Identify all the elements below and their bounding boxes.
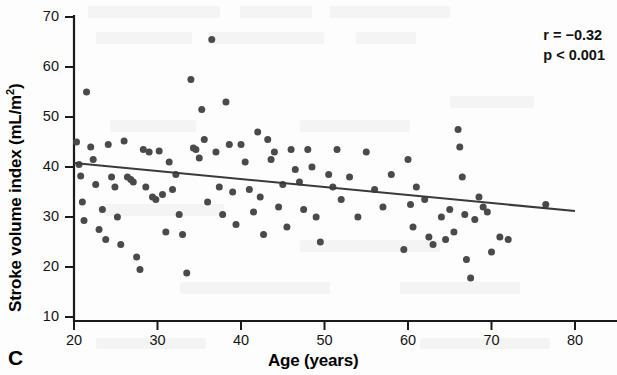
- data-point: [156, 148, 163, 155]
- data-point: [484, 209, 491, 216]
- data-point: [505, 236, 512, 243]
- data-point: [152, 196, 159, 203]
- data-point: [459, 174, 466, 181]
- data-point: [169, 186, 176, 193]
- data-point: [317, 239, 324, 246]
- data-point: [363, 149, 370, 156]
- data-point: [232, 221, 239, 228]
- data-point: [438, 214, 445, 221]
- data-point: [159, 191, 166, 198]
- data-point: [176, 211, 183, 218]
- scatter-points: [73, 36, 549, 282]
- data-point: [179, 231, 186, 238]
- data-point: [405, 156, 412, 163]
- y-tick-label: 30: [29, 208, 59, 224]
- data-point: [467, 275, 474, 282]
- data-point: [222, 99, 229, 106]
- y-tick-label: 60: [29, 58, 59, 74]
- data-point: [136, 266, 143, 273]
- y-tick-label: 10: [29, 308, 59, 324]
- data-point: [379, 204, 386, 211]
- data-point: [325, 171, 332, 178]
- data-point: [300, 206, 307, 213]
- data-point: [334, 146, 341, 153]
- data-point: [257, 194, 264, 201]
- x-tick-label: 70: [477, 332, 507, 348]
- data-point: [87, 144, 94, 151]
- correlation-value: r = −0.32: [543, 26, 605, 46]
- data-point: [313, 214, 320, 221]
- data-point: [455, 126, 462, 133]
- data-point: [229, 189, 236, 196]
- data-point: [430, 241, 437, 248]
- data-point: [238, 141, 245, 148]
- data-point: [77, 173, 84, 180]
- data-point: [254, 129, 261, 136]
- data-point: [264, 136, 271, 143]
- data-point: [388, 171, 395, 178]
- data-point: [133, 254, 140, 261]
- data-point: [413, 184, 420, 191]
- x-tick-label: 20: [59, 332, 89, 348]
- data-point: [496, 234, 503, 241]
- x-tick-label: 50: [310, 332, 340, 348]
- x-tick-label: 60: [393, 332, 423, 348]
- data-point: [108, 174, 115, 181]
- data-point: [166, 159, 173, 166]
- data-point: [271, 149, 278, 156]
- data-point: [130, 179, 137, 186]
- x-tick-label: 80: [560, 332, 590, 348]
- axes: [73, 15, 617, 322]
- y-axis-title-main: Stroke volume index (mL/m: [6, 95, 25, 312]
- data-point: [226, 141, 233, 148]
- data-point: [407, 201, 414, 208]
- data-point: [242, 159, 249, 166]
- data-point: [196, 155, 203, 162]
- data-point: [410, 224, 417, 231]
- data-point: [246, 186, 253, 193]
- data-point: [102, 236, 109, 243]
- data-point: [187, 76, 194, 83]
- data-point: [400, 246, 407, 253]
- data-point: [471, 216, 478, 223]
- y-axis-title-close: ): [6, 84, 25, 89]
- data-point: [204, 199, 211, 206]
- data-point: [99, 206, 106, 213]
- data-point: [192, 146, 199, 153]
- panel-label: C: [8, 346, 23, 370]
- data-point: [346, 174, 353, 181]
- data-point: [450, 229, 457, 236]
- data-point: [283, 224, 290, 231]
- data-point: [90, 156, 97, 163]
- data-point: [162, 229, 169, 236]
- y-tick-label: 70: [29, 8, 59, 24]
- scatter-plot-figure: 1020304050607020304050607080 r = −0.32 p…: [0, 0, 617, 375]
- data-point: [212, 149, 219, 156]
- data-point: [475, 194, 482, 201]
- data-point: [81, 217, 88, 224]
- x-axis-ticks: [74, 321, 575, 330]
- pvalue-text: p < 0.001: [543, 46, 605, 66]
- data-point: [111, 184, 118, 191]
- data-point: [208, 36, 215, 43]
- data-point: [142, 184, 149, 191]
- data-point: [250, 209, 257, 216]
- x-tick-label: 40: [226, 332, 256, 348]
- data-point: [308, 164, 315, 171]
- data-point: [121, 138, 128, 145]
- x-tick-label: 30: [143, 332, 173, 348]
- y-axis-title: Stroke volume index (mL/m2): [4, 84, 26, 312]
- data-point: [338, 196, 345, 203]
- y-tick-label: 40: [29, 158, 59, 174]
- data-point: [201, 136, 208, 143]
- y-tick-label: 50: [29, 108, 59, 124]
- data-point: [442, 236, 449, 243]
- data-point: [92, 181, 99, 188]
- data-point: [79, 199, 86, 206]
- data-point: [260, 231, 267, 238]
- statistics-annotation: r = −0.32 p < 0.001: [543, 26, 605, 65]
- data-point: [354, 214, 361, 221]
- y-tick-label: 20: [29, 258, 59, 274]
- data-point: [216, 184, 223, 191]
- data-point: [83, 89, 90, 96]
